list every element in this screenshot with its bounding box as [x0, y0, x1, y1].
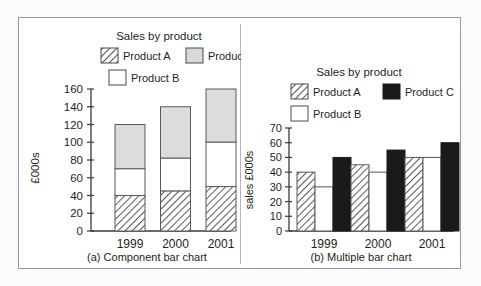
y-tick-label: 50	[270, 151, 282, 163]
y-tick-label: 0	[276, 225, 282, 237]
bar-product-a	[351, 165, 369, 231]
legend-label-product-b: Product B	[313, 108, 361, 120]
bar-segment-product-b	[161, 158, 191, 191]
bar-product-b	[315, 187, 333, 231]
legend-label-product-a: Product A	[313, 86, 361, 98]
legend-swatch-product-a	[101, 48, 118, 63]
legend-swatch-product-c	[186, 48, 203, 63]
x-tick-label: 1999	[311, 237, 338, 251]
multiple-bar-chart: Sales by productProduct AProduct CProduc…	[241, 18, 462, 268]
legend-label-product-c: Product C	[405, 86, 454, 98]
x-tick-label: 2001	[419, 237, 446, 251]
bar-segment-product-b	[206, 142, 236, 186]
legend-label-product-b: Product B	[131, 72, 179, 84]
bar-group-2000	[351, 150, 405, 231]
legend-swatch-product-b	[109, 70, 126, 85]
bar-segment-product-a	[161, 191, 191, 231]
y-axis-label: £000s	[29, 152, 41, 184]
bar-product-c	[333, 157, 351, 231]
bar-product-a	[297, 172, 315, 231]
bar-segment-product-c	[115, 125, 145, 169]
stacked-bar-2001	[206, 89, 236, 231]
legend-swatch-product-a	[291, 84, 308, 99]
component-bar-chart: Sales by productProduct AProduct CProduc…	[19, 18, 241, 268]
y-tick-label: 40	[70, 190, 83, 202]
multiple-bar-chart-panel: Sales by productProduct AProduct CProduc…	[241, 18, 462, 268]
x-tick-label: 2001	[208, 237, 235, 251]
y-tick-label: 20	[270, 196, 282, 208]
bar-product-c	[387, 150, 405, 231]
stacked-bar-1999	[115, 125, 145, 232]
y-tick-label: 70	[270, 122, 282, 134]
y-tick-label: 100	[64, 136, 83, 148]
y-tick-label: 140	[64, 101, 83, 113]
bar-segment-product-c	[206, 89, 236, 142]
bar-segment-product-b	[115, 169, 145, 196]
component-bar-chart-panel: Sales by productProduct AProduct CProduc…	[19, 18, 241, 268]
x-tick-label: 2000	[162, 237, 189, 251]
y-tick-label: 10	[270, 210, 282, 222]
y-tick-label: 30	[270, 181, 282, 193]
legend-swatch-product-c	[383, 84, 400, 99]
legend-label-product-c: Product C	[208, 50, 241, 62]
stacked-bar-2000	[161, 107, 191, 231]
figure-canvas: Sales by productProduct AProduct CProduc…	[0, 0, 481, 286]
figure-frame: Sales by productProduct AProduct CProduc…	[18, 17, 461, 269]
y-axis-label: sales £000s	[243, 150, 255, 209]
bar-segment-product-a	[115, 196, 145, 232]
y-tick-label: 20	[70, 207, 83, 219]
y-tick-label: 120	[64, 119, 83, 131]
chart-title: Sales by product	[316, 66, 402, 78]
bar-segment-product-a	[206, 187, 236, 231]
legend-swatch-product-b	[291, 106, 308, 121]
y-tick-label: 160	[64, 83, 83, 95]
bar-group-2001	[405, 143, 459, 231]
bar-group-1999	[297, 157, 351, 231]
y-tick-label: 40	[270, 166, 282, 178]
y-tick-label: 0	[77, 225, 83, 237]
bar-product-a	[405, 157, 423, 231]
bar-product-c	[441, 143, 459, 231]
y-tick-label: 60	[270, 137, 282, 149]
chart-caption: (b) Multiple bar chart	[311, 251, 412, 263]
x-tick-label: 1999	[117, 237, 144, 251]
bar-segment-product-c	[161, 107, 191, 158]
chart-title: Sales by product	[116, 30, 202, 42]
bar-product-b	[423, 157, 441, 231]
legend-label-product-a: Product A	[123, 50, 171, 62]
y-tick-label: 80	[70, 154, 83, 166]
chart-caption: (a) Component bar chart	[87, 251, 207, 263]
bar-product-b	[369, 172, 387, 231]
y-tick-label: 60	[70, 172, 83, 184]
x-tick-label: 2000	[365, 237, 392, 251]
